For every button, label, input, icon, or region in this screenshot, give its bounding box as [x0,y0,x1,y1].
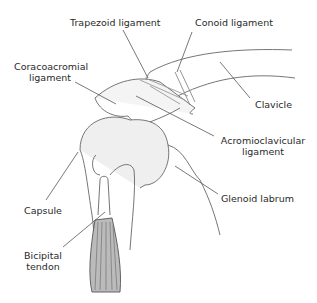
label-bicipital-line1: Bicipital [22,250,64,261]
label-bicipital-tendon: Bicipital tendon [22,250,64,272]
label-clavicle: Clavicle [255,99,292,110]
label-capsule: Capsule [24,205,62,216]
label-acromioclavicular-line1: Acromioclavicular [218,135,308,146]
label-trapezoid-ligament: Trapezoid ligament [70,17,160,28]
label-acromioclavicular-line2: ligament [218,146,308,157]
label-coracoacromial-line1: Coracoacromial [14,61,86,72]
label-glenoid-labrum: Glenoid labrum [221,193,294,204]
label-bicipital-line2: tendon [22,261,64,272]
label-coracoacromial-line2: ligament [14,72,86,83]
label-coracoacromial-ligament: Coracoacromial ligament [14,61,86,83]
label-acromioclavicular-ligament: Acromioclavicular ligament [218,135,308,157]
label-conoid-ligament: Conoid ligament [195,17,273,28]
